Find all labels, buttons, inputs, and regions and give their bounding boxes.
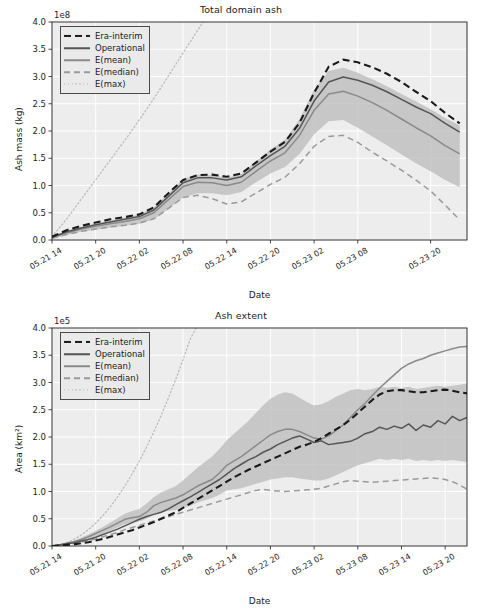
legend-label: E(mean) bbox=[95, 55, 131, 65]
legend-swatch-dotted-icon bbox=[64, 385, 90, 395]
legend-swatch-solid-icon bbox=[64, 43, 90, 53]
chart-panel-ash-extent: Ash extent 1e5 Area (km²) Date Era-inter… bbox=[0, 306, 482, 611]
y-tick-label: 4.0 bbox=[20, 17, 46, 27]
y-tick-label: 3.0 bbox=[20, 72, 46, 82]
y-tick-label: 0.0 bbox=[20, 235, 46, 245]
y-tick-label: 1.0 bbox=[20, 181, 46, 191]
y-tick-label: 3.5 bbox=[20, 44, 46, 54]
legend-item[interactable]: Era-interim bbox=[64, 30, 145, 42]
chart-panel-total-domain-ash: Total domain ash 1e8 Ash mass (kg) Date … bbox=[0, 0, 482, 305]
legend-swatch-solid-icon bbox=[64, 55, 90, 65]
legend-swatch-solid-icon bbox=[64, 361, 90, 371]
legend-label: Era-interim bbox=[95, 31, 143, 41]
legend-label: E(max) bbox=[95, 79, 126, 89]
legend-swatch-solid-icon bbox=[64, 349, 90, 359]
legend-swatch-dashed-icon bbox=[64, 373, 90, 383]
y-tick-label: 1.0 bbox=[20, 487, 46, 497]
y-tick-label: 1.5 bbox=[20, 153, 46, 163]
legend-item[interactable]: E(max) bbox=[64, 384, 145, 396]
legend-item[interactable]: E(median) bbox=[64, 372, 145, 384]
y-tick-label: 1.5 bbox=[20, 459, 46, 469]
legend-item[interactable]: E(median) bbox=[64, 66, 145, 78]
legend-label: Operational bbox=[95, 349, 145, 359]
legend-item[interactable]: Operational bbox=[64, 348, 145, 360]
legend-label: E(median) bbox=[95, 67, 139, 77]
y-tick-label: 4.0 bbox=[20, 323, 46, 333]
legend-swatch-dashed-icon bbox=[64, 67, 90, 77]
legend-item[interactable]: E(mean) bbox=[64, 54, 145, 66]
chart-legend: Era-interimOperationalE(mean)E(median)E(… bbox=[60, 26, 150, 94]
legend-label: Operational bbox=[95, 43, 145, 53]
y-tick-label: 2.5 bbox=[20, 405, 46, 415]
y-tick-label: 0.5 bbox=[20, 514, 46, 524]
legend-label: E(mean) bbox=[95, 361, 131, 371]
legend-swatch-dashed-thick-icon bbox=[64, 31, 90, 41]
y-tick-label: 2.0 bbox=[20, 432, 46, 442]
y-tick-label: 3.5 bbox=[20, 350, 46, 360]
chart-legend: Era-interimOperationalE(mean)E(median)E(… bbox=[60, 332, 150, 400]
legend-item[interactable]: E(mean) bbox=[64, 360, 145, 372]
legend-item[interactable]: Operational bbox=[64, 42, 145, 54]
y-tick-label: 0.0 bbox=[20, 541, 46, 551]
legend-label: E(median) bbox=[95, 373, 139, 383]
legend-label: Era-interim bbox=[95, 337, 143, 347]
y-tick-label: 3.0 bbox=[20, 378, 46, 388]
legend-item[interactable]: E(max) bbox=[64, 78, 145, 90]
y-tick-label: 2.0 bbox=[20, 126, 46, 136]
legend-swatch-dotted-icon bbox=[64, 79, 90, 89]
figure-container: Total domain ash 1e8 Ash mass (kg) Date … bbox=[0, 0, 482, 611]
legend-swatch-dashed-thick-icon bbox=[64, 337, 90, 347]
y-tick-label: 2.5 bbox=[20, 99, 46, 109]
y-tick-label: 0.5 bbox=[20, 208, 46, 218]
legend-label: E(max) bbox=[95, 385, 126, 395]
legend-item[interactable]: Era-interim bbox=[64, 336, 145, 348]
